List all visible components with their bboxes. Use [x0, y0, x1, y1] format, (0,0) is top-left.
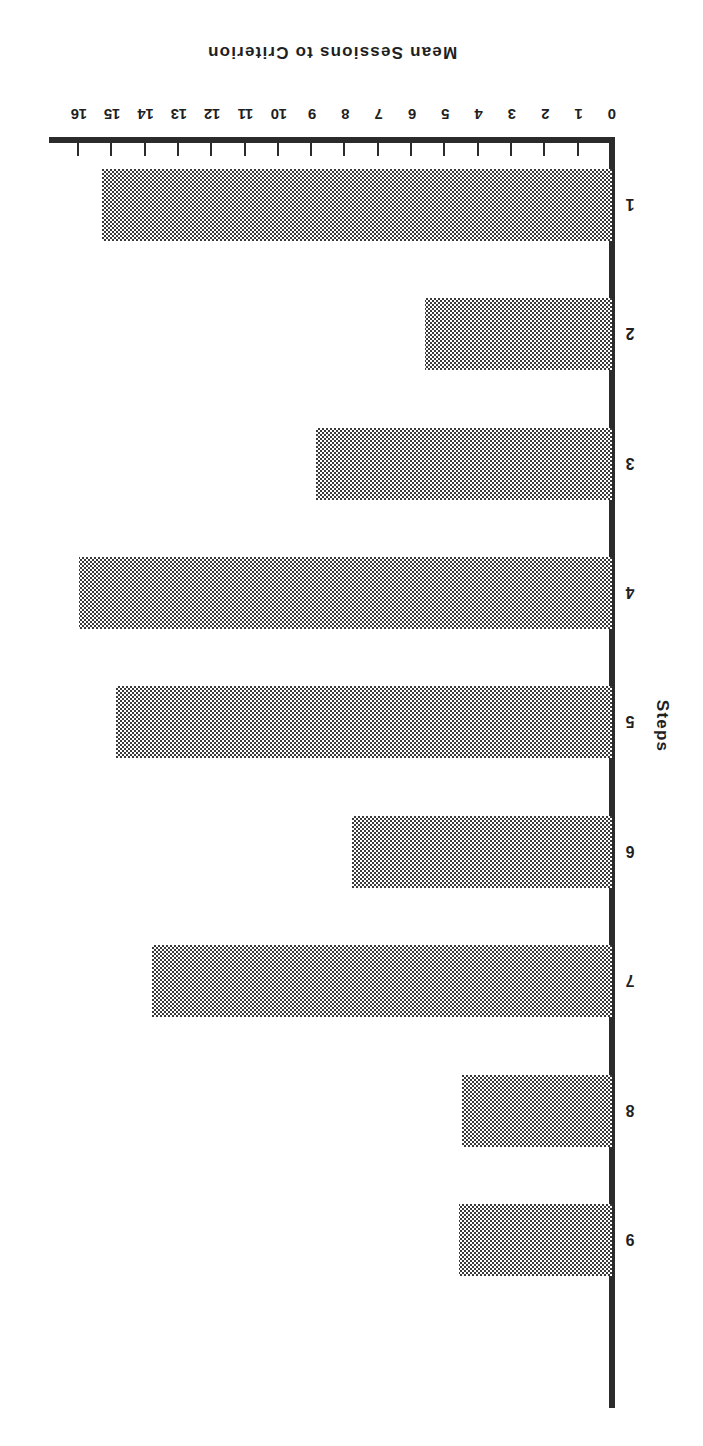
value-axis-tick	[344, 143, 346, 156]
category-axis-label: 9	[614, 1230, 646, 1248]
value-axis-tick	[210, 143, 212, 156]
value-axis-tick	[144, 143, 146, 156]
bar	[316, 428, 612, 500]
bar	[462, 1075, 612, 1147]
category-axis-label: 2	[614, 324, 646, 342]
value-axis-line	[49, 137, 615, 143]
value-axis-tick	[310, 143, 312, 156]
bar	[352, 816, 612, 888]
value-axis-tick	[377, 143, 379, 156]
category-axis-label: 7	[614, 971, 646, 989]
value-axis-tick	[543, 143, 545, 156]
category-axis-title: Steps	[652, 627, 672, 827]
bar	[425, 298, 612, 370]
value-axis-tick	[177, 143, 179, 156]
category-axis-label: 1	[614, 195, 646, 213]
category-axis-label: 4	[614, 583, 646, 601]
value-axis-tick	[110, 143, 112, 156]
category-axis-label: 8	[614, 1101, 646, 1119]
value-axis-tick	[443, 143, 445, 156]
bar-chart-plot-area: 012345678910111213141516 123456789 Mean …	[52, 140, 612, 1305]
bar	[116, 687, 612, 759]
value-axis-tick-label: 16	[59, 106, 99, 123]
value-axis-tick	[577, 143, 579, 156]
bar	[102, 169, 612, 241]
bar	[79, 557, 612, 629]
value-axis-title: Mean Sessions to Criterion	[52, 42, 612, 62]
value-axis-tick	[510, 143, 512, 156]
bar	[459, 1204, 612, 1276]
figure-canvas: 012345678910111213141516 123456789 Mean …	[0, 0, 703, 1446]
value-axis-tick	[477, 143, 479, 156]
category-axis-label: 5	[614, 713, 646, 731]
value-axis-tick	[277, 143, 279, 156]
value-axis-tick	[77, 143, 79, 156]
bar	[152, 945, 612, 1017]
value-axis-tick	[244, 143, 246, 156]
value-axis-tick	[610, 143, 612, 156]
category-axis-label: 6	[614, 842, 646, 860]
category-axis-label: 3	[614, 454, 646, 472]
value-axis-tick	[410, 143, 412, 156]
